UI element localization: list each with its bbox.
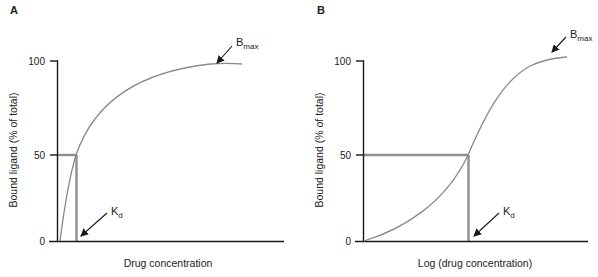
panel-b-label: B [317, 4, 325, 16]
panel-a-ytick-0: 0 [39, 236, 45, 247]
panel-b-axes [355, 61, 588, 242]
figure: A Bound ligand (% of total) 100 50 0 Bma… [0, 0, 598, 277]
panel-b-y-axis-title: Bound ligand (% of total) [313, 93, 325, 208]
panel-a: A Bound ligand (% of total) 100 50 0 Bma… [7, 4, 284, 269]
panel-b-x-axis-title: Log (drug concentration) [418, 257, 532, 269]
panel-b-kd-arrow [474, 213, 499, 236]
panel-b-bmax-label: Bmax [570, 28, 592, 43]
panel-a-kd-arrow [81, 213, 107, 236]
panel-a-bmax-label: Bmax [236, 36, 258, 51]
panel-a-ytick-50: 50 [34, 150, 46, 161]
panel-a-y-axis-title: Bound ligand (% of total) [7, 93, 19, 208]
panel-b: B Bound ligand (% of total) 100 50 0 Bma… [313, 4, 592, 269]
panel-b-ytick-100: 100 [334, 56, 351, 67]
panel-a-binding-curve [60, 63, 242, 241]
panel-b-ytick-0: 0 [345, 236, 351, 247]
panel-a-bmax-arrow [217, 46, 232, 63]
panel-b-bmax-arrow [552, 37, 566, 52]
panel-b-kd-guides [363, 155, 469, 241]
panel-b-binding-curve [364, 57, 567, 241]
panel-a-label: A [10, 4, 18, 16]
panel-a-kd-label: Kd [111, 205, 123, 220]
panel-b-kd-label: Kd [503, 205, 515, 220]
panel-a-axes [49, 61, 284, 242]
panel-b-ytick-50: 50 [340, 150, 352, 161]
panel-a-x-axis-title: Drug concentration [124, 257, 213, 269]
panel-a-ytick-100: 100 [28, 56, 45, 67]
